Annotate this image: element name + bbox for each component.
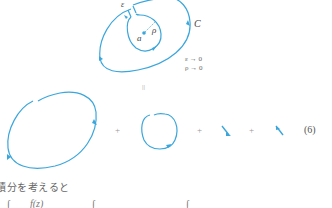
integral-sign-2: ∫ bbox=[92, 198, 95, 208]
integral-sign-3: ∫ bbox=[186, 198, 189, 208]
arrow-keyhole bbox=[124, 15, 128, 19]
integral-sign-1: ∫ bbox=[7, 198, 10, 208]
bottom-ellipse bbox=[8, 92, 96, 168]
arrow-inner-bottom bbox=[152, 46, 157, 51]
label-contour-c: C bbox=[194, 19, 201, 29]
plus-sign-3: + bbox=[249, 125, 254, 135]
contour-diagram bbox=[0, 0, 332, 208]
label-rho: ρ bbox=[152, 26, 156, 35]
function-fz: f(z) bbox=[30, 198, 43, 208]
outer-contour-path bbox=[100, 0, 190, 72]
equals-sign: || bbox=[142, 83, 145, 91]
plus-sign-1: + bbox=[115, 125, 120, 135]
bottom-circle bbox=[142, 114, 177, 149]
plus-sign-2: + bbox=[197, 125, 202, 135]
limit-rho: ρ → 0 bbox=[185, 64, 203, 73]
limit-conditions: ε → 0 ρ → 0 bbox=[185, 55, 203, 73]
bottom-math-fragments: ∫ f(z) ∫ ∫ bbox=[0, 198, 332, 208]
label-epsilon: ε bbox=[121, 1, 124, 9]
equation-number: (6) bbox=[304, 124, 316, 135]
limit-epsilon: ε → 0 bbox=[185, 55, 203, 64]
japanese-text-line: 積分を考えると bbox=[0, 179, 70, 194]
label-point-a: a bbox=[137, 34, 142, 43]
